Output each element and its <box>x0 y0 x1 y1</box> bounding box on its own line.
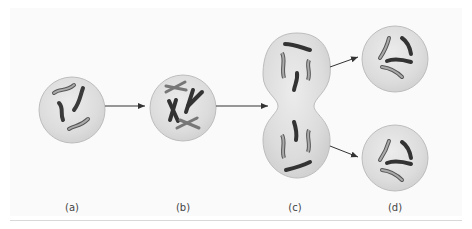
stage-label-b: (b) <box>176 202 190 213</box>
figure-canvas: (a) (b) (c) (d) <box>0 0 472 229</box>
cell-c <box>263 33 330 178</box>
chromosome-icon <box>282 53 284 78</box>
cell-b <box>150 75 216 141</box>
bottom-divider <box>10 220 462 221</box>
stage-label-d: (d) <box>388 202 402 213</box>
stage-label-a: (a) <box>65 202 79 213</box>
cell-d-bottom <box>362 125 428 191</box>
cell-a <box>39 77 105 143</box>
arrow-icon <box>330 57 358 67</box>
chromosome-icon <box>387 59 411 62</box>
stage-label-c: (c) <box>288 202 301 213</box>
chromosome-icon <box>387 161 411 164</box>
chromosome-icon <box>294 122 296 140</box>
cell-division-diagram <box>0 0 472 229</box>
chromosome-icon <box>282 135 284 158</box>
cell-d-top <box>362 26 428 92</box>
chromosome-icon <box>308 130 309 152</box>
arrow-icon <box>330 146 358 157</box>
chromosome-icon <box>308 60 309 80</box>
